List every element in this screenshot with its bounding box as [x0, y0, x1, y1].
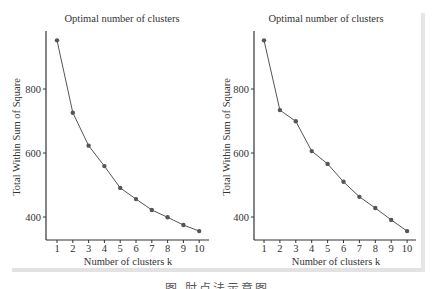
data-point: [181, 223, 185, 227]
data-point: [55, 38, 59, 42]
data-point: [86, 143, 90, 147]
x-axis-label: Number of clusters k: [84, 256, 173, 267]
x-tick-label: 3: [86, 243, 91, 254]
data-line: [57, 40, 199, 231]
data-point: [405, 229, 409, 233]
x-tick-label: 1: [261, 243, 266, 254]
x-tick-label: 1: [54, 243, 59, 254]
data-points: [262, 38, 410, 233]
y-tick-label: 400: [233, 212, 249, 223]
data-point: [294, 119, 298, 123]
x-ticks: 12345678910: [261, 240, 412, 254]
figure-caption: 图 肘点法示意图: [0, 280, 434, 289]
x-tick-label: 7: [149, 243, 154, 254]
data-points: [55, 38, 202, 233]
data-point: [325, 162, 329, 166]
data-point: [165, 215, 169, 219]
y-tick-label: 600: [25, 148, 41, 159]
x-tick-label: 10: [194, 243, 205, 254]
x-tick-label: 7: [357, 243, 362, 254]
data-point: [357, 195, 361, 199]
data-point: [134, 197, 138, 201]
x-tick-label: 4: [309, 243, 315, 254]
charts-canvas: Optimal number of clusters Total Within …: [0, 0, 434, 289]
x-tick-label: 5: [325, 243, 330, 254]
chart-title: Optimal number of clusters: [64, 13, 179, 24]
y-ticks: 400600800: [233, 84, 254, 223]
data-point: [278, 108, 282, 112]
left-elbow-chart: Optimal number of clusters Total Within …: [11, 13, 209, 267]
x-tick-label: 2: [277, 243, 282, 254]
data-line: [264, 40, 407, 231]
x-tick-label: 2: [70, 243, 75, 254]
x-tick-label: 9: [389, 243, 394, 254]
x-tick-label: 3: [293, 243, 298, 254]
x-tick-label: 4: [102, 243, 108, 254]
x-ticks: 12345678910: [54, 240, 204, 254]
x-tick-label: 5: [118, 243, 123, 254]
x-tick-label: 8: [165, 243, 170, 254]
y-axis-label: Total Within Sum of Square: [11, 78, 22, 196]
data-point: [197, 229, 201, 233]
x-tick-label: 10: [402, 243, 413, 254]
y-tick-label: 800: [233, 84, 249, 95]
x-tick-label: 8: [373, 243, 378, 254]
x-tick-label: 9: [181, 243, 186, 254]
data-point: [341, 180, 345, 184]
y-tick-label: 800: [25, 84, 41, 95]
y-tick-label: 400: [25, 212, 41, 223]
data-point: [71, 110, 75, 114]
data-point: [373, 206, 377, 210]
x-axis-label: Number of clusters k: [292, 256, 381, 267]
y-tick-label: 600: [233, 148, 249, 159]
data-point: [389, 218, 393, 222]
y-ticks: 400600800: [25, 84, 46, 223]
y-axis-label: Total Within Sum of Square: [221, 78, 232, 196]
chart-title: Optimal number of clusters: [268, 13, 383, 24]
right-elbow-chart: Optimal number of clusters Total Within …: [221, 13, 416, 267]
data-point: [118, 186, 122, 190]
data-point: [150, 208, 154, 212]
data-point: [102, 164, 106, 168]
data-point: [262, 38, 266, 42]
data-point: [310, 149, 314, 153]
x-tick-label: 6: [133, 243, 138, 254]
x-tick-label: 6: [341, 243, 346, 254]
